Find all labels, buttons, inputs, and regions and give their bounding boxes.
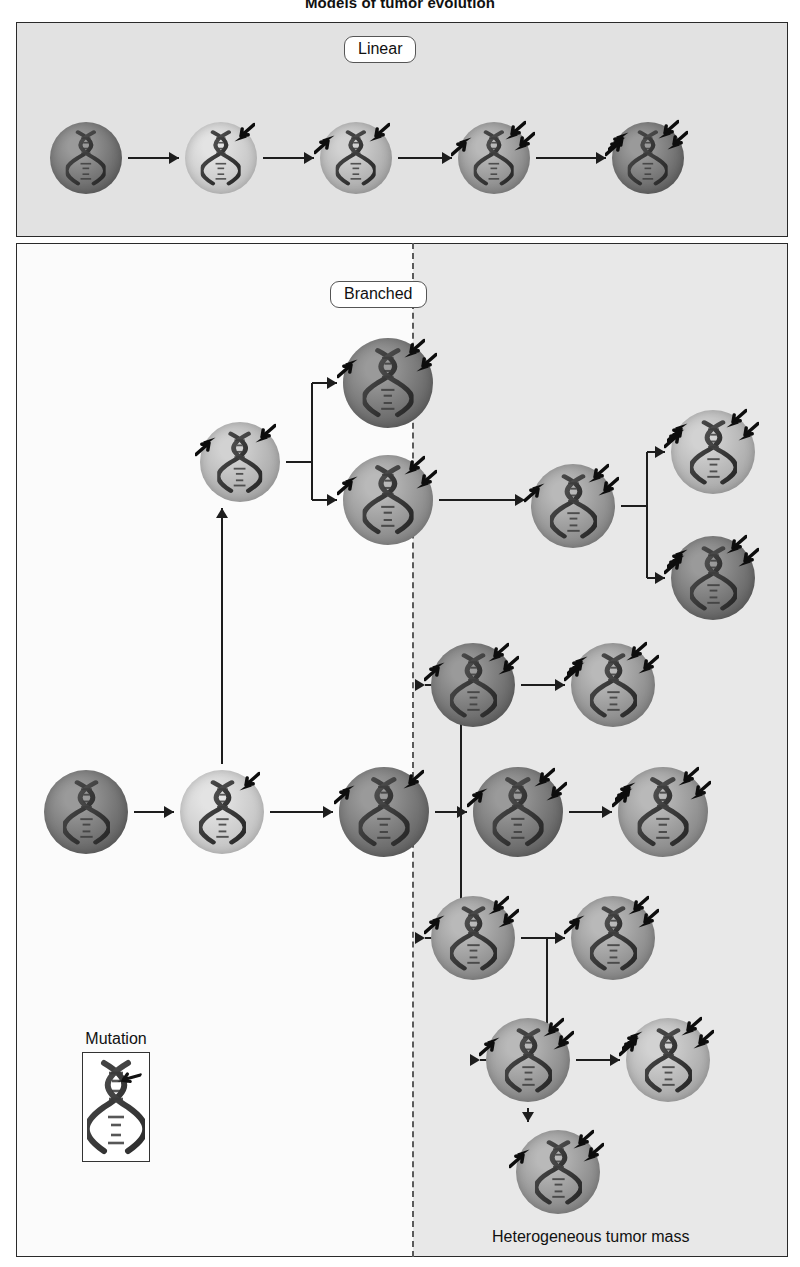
mutation-arrow-icon: [608, 130, 630, 152]
cell-dna: [62, 773, 109, 850]
mutation-arrow-icon: [545, 781, 567, 803]
cell-membrane: [44, 770, 128, 854]
mutation-marker: [497, 655, 519, 677]
mutation-arrow-icon: [667, 421, 689, 443]
mutation-arrow-icon: [337, 357, 359, 379]
tumor-cell: [326, 321, 450, 445]
mutation-arrow-icon: [195, 435, 217, 457]
mutation-marker: [415, 352, 437, 374]
tumor-cell: [469, 1001, 587, 1119]
mutation-arrow-icon: [415, 352, 437, 374]
tumor-cell: [456, 750, 580, 874]
mutation-marker: [582, 1142, 604, 1164]
cell-dna: [66, 125, 106, 191]
mutation-marker: [337, 357, 359, 379]
mutation-arrow-icon: [622, 1029, 644, 1051]
mutation-marker: [368, 122, 390, 144]
mutation-arrow-icon: [424, 913, 446, 935]
chip-branched: Branched: [330, 281, 427, 308]
tumor-cell: [654, 519, 772, 637]
mutation-marker: [637, 654, 659, 676]
tumor-cell: [601, 750, 725, 874]
legend-mutation: Mutation: [56, 1030, 176, 1162]
mutation-marker: [608, 130, 630, 152]
mutation-arrow-icon: [567, 654, 589, 676]
tumor-cell: [654, 393, 772, 511]
mutation-arrow-icon: [509, 1147, 531, 1169]
mutation-marker: [479, 1035, 501, 1057]
mutation-marker: [666, 130, 688, 152]
mutation-arrow-icon: [424, 660, 446, 682]
connector-line: [221, 508, 223, 764]
mutation-arrow-icon: [402, 769, 424, 791]
mutation-marker: [195, 435, 217, 457]
fork-branch: [311, 462, 313, 500]
tumor-cell: [499, 1113, 617, 1231]
mutation-arrow-icon: [689, 780, 711, 802]
mutation-arrow-icon: [564, 913, 586, 935]
mutation-marker: [545, 781, 567, 803]
mutation-marker: [334, 783, 356, 805]
mutation-marker: [424, 913, 446, 935]
mutation-marker: [314, 133, 336, 155]
mutation-marker: [451, 135, 473, 157]
tumor-cell: [163, 753, 281, 871]
mutation-arrow-icon: [233, 122, 255, 144]
mutation-arrow-icon: [337, 474, 359, 496]
mutation-arrow-icon: [582, 1142, 604, 1164]
mutation-marker: [737, 547, 759, 569]
mutation-arrow-icon: [524, 481, 546, 503]
mutation-arrow-icon: [451, 135, 473, 157]
heterogeneous-tumor-mass-label: Heterogeneous tumor mass: [492, 1228, 689, 1246]
legend-title: Mutation: [56, 1030, 176, 1048]
cell-membrane: [50, 122, 122, 194]
mutation-marker: [233, 122, 255, 144]
mutation-arrow-icon: [737, 547, 759, 569]
mutation-marker: [497, 908, 519, 930]
tumor-cell: [326, 438, 450, 562]
mutation-marker: [552, 1030, 574, 1052]
mutation-marker: [667, 547, 689, 569]
mutation-marker: [667, 421, 689, 443]
tumor-cell: [414, 879, 532, 997]
tumor-cell: [554, 879, 672, 997]
mutation-marker: [402, 769, 424, 791]
mutation-arrow-icon: [238, 771, 260, 793]
mutation-arrow-icon: [597, 476, 619, 498]
mutation-marker: [415, 469, 437, 491]
tumor-cell: [33, 105, 139, 211]
mutation-marker: [637, 908, 659, 930]
mutation-arrow-icon: [368, 122, 390, 144]
mutation-arrow-icon: [513, 131, 535, 153]
mutation-marker: [564, 913, 586, 935]
mutation-marker: [238, 771, 260, 793]
tumor-cell: [609, 1001, 727, 1119]
tumor-cell: [168, 105, 274, 211]
tumor-cell: [441, 105, 547, 211]
fork-branch: [311, 383, 313, 462]
dna-helix-icon: [66, 125, 106, 191]
mutation-marker: [597, 476, 619, 498]
fork-branch: [646, 506, 648, 578]
mutation-marker: [467, 786, 489, 808]
mutation-arrow-icon: [637, 908, 659, 930]
mutation-arrow-icon: [737, 421, 759, 443]
mutation-arrow-icon: [334, 783, 356, 805]
mutation-arrow-icon: [415, 469, 437, 491]
mutation-arrow-icon: [314, 133, 336, 155]
mutation-arrow-icon: [615, 780, 637, 802]
mutation-arrow-icon: [692, 1029, 714, 1051]
tumor-cell: [595, 105, 701, 211]
mutation-marker: [615, 780, 637, 802]
mutation-marker: [524, 481, 546, 503]
chip-linear: Linear: [344, 36, 416, 63]
mutation-marker: [737, 421, 759, 443]
mutation-marker: [513, 131, 535, 153]
dna-helix-icon: [62, 773, 109, 850]
mutation-arrow-icon: [552, 1030, 574, 1052]
legend-box: [82, 1052, 150, 1162]
figure-title: Models of tumor evolution: [0, 0, 800, 11]
tumor-cell: [322, 750, 446, 874]
mutation-marker: [692, 1029, 714, 1051]
tumor-cell: [27, 753, 145, 871]
